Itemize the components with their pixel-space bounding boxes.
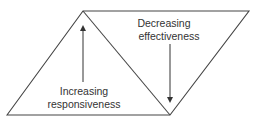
decreasing-label: Decreasing [137,17,190,29]
effectiveness-label: effectiveness [138,30,199,42]
parallelogram-outline [7,11,249,115]
increasing-label: Increasing [60,85,109,97]
responsiveness-label: responsiveness [48,98,121,110]
parallelogram-diagram: Decreasing effectiveness Increasing resp… [0,0,257,123]
